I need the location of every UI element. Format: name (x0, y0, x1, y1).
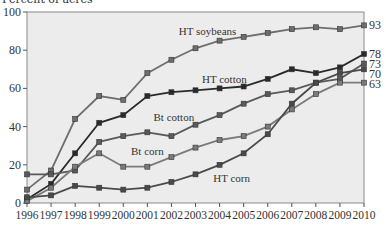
x-tick-label: 2007 (280, 209, 303, 221)
data-marker (193, 88, 198, 93)
data-marker (169, 90, 174, 95)
series-annotation: HT corn (213, 172, 250, 184)
y-tick-label: 0 (15, 196, 21, 210)
data-marker (25, 195, 30, 200)
end-value-label: 93 (369, 18, 381, 32)
data-marker (145, 164, 150, 169)
data-marker (145, 130, 150, 135)
data-marker (362, 61, 367, 66)
y-tick-label: 100 (3, 5, 21, 19)
data-marker (217, 86, 222, 91)
data-marker (73, 116, 78, 121)
data-marker (362, 67, 367, 72)
data-marker (121, 97, 126, 102)
data-marker (313, 71, 318, 76)
data-marker (337, 65, 342, 70)
data-marker (289, 27, 294, 32)
data-marker (49, 172, 54, 177)
data-marker (313, 92, 318, 97)
data-marker (169, 57, 174, 62)
data-marker (217, 137, 222, 142)
x-tick-label: 2010 (353, 209, 376, 221)
y-tick-label: 80 (9, 43, 21, 57)
y-axis-label: Percent of acres (2, 0, 93, 6)
line-chart: Percent of acres 02040608010019961997199… (0, 0, 386, 226)
series-annotation: Bt corn (131, 145, 164, 157)
data-marker (289, 101, 294, 106)
x-tick-label: 2004 (208, 209, 231, 221)
data-marker (241, 151, 246, 156)
x-tick-label: 2002 (160, 209, 183, 221)
data-marker (217, 162, 222, 167)
data-marker (337, 80, 342, 85)
x-tick-label: 2006 (256, 209, 279, 221)
data-marker (97, 120, 102, 125)
data-marker (49, 185, 54, 190)
x-tick-label: 1996 (16, 209, 39, 221)
data-marker (121, 164, 126, 169)
data-marker (193, 172, 198, 177)
data-marker (241, 134, 246, 139)
data-marker (193, 46, 198, 51)
data-marker (73, 164, 78, 169)
data-marker (289, 67, 294, 72)
data-marker (217, 38, 222, 43)
series-annotation: HT soybeans (179, 25, 237, 37)
data-marker (145, 71, 150, 76)
x-tick-label: 1999 (88, 209, 111, 221)
y-tick-label: 20 (9, 158, 21, 172)
x-tick-label: 1997 (40, 209, 63, 221)
data-marker (73, 151, 78, 156)
data-marker (97, 139, 102, 144)
data-marker (169, 134, 174, 139)
y-tick-label: 60 (9, 81, 21, 95)
x-tick-label: 2001 (136, 209, 159, 221)
data-marker (265, 92, 270, 97)
data-marker (362, 23, 367, 28)
chart-canvas: 0204060801001996199719981999200020012002… (0, 0, 386, 226)
data-marker (362, 52, 367, 57)
x-tick-label: 2003 (184, 209, 207, 221)
data-marker (97, 151, 102, 156)
data-marker (193, 145, 198, 150)
data-marker (313, 80, 318, 85)
data-marker (362, 80, 367, 85)
x-tick-label: 1998 (64, 209, 87, 221)
data-marker (169, 155, 174, 160)
data-marker (145, 185, 150, 190)
data-marker (265, 76, 270, 81)
data-marker (265, 31, 270, 36)
data-marker (241, 34, 246, 39)
series-annotation: Bt cotton (154, 111, 195, 123)
data-marker (145, 94, 150, 99)
data-marker (121, 113, 126, 118)
data-marker (97, 185, 102, 190)
data-marker (49, 193, 54, 198)
data-marker (265, 124, 270, 129)
data-marker (337, 27, 342, 32)
x-tick-label: 2008 (304, 209, 327, 221)
data-marker (337, 71, 342, 76)
x-tick-label: 2009 (328, 209, 351, 221)
data-marker (241, 101, 246, 106)
data-marker (25, 187, 30, 192)
series-annotation: HT cotton (202, 73, 247, 85)
data-marker (313, 25, 318, 30)
data-marker (169, 179, 174, 184)
data-marker (121, 134, 126, 139)
data-marker (265, 132, 270, 137)
x-tick-label: 2005 (232, 209, 255, 221)
end-value-label: 63 (369, 77, 381, 91)
data-marker (121, 187, 126, 192)
data-marker (25, 172, 30, 177)
data-marker (217, 113, 222, 118)
data-marker (97, 94, 102, 99)
data-marker (73, 183, 78, 188)
x-tick-label: 2000 (112, 209, 135, 221)
data-marker (289, 107, 294, 112)
data-marker (289, 88, 294, 93)
y-tick-label: 40 (9, 120, 21, 134)
